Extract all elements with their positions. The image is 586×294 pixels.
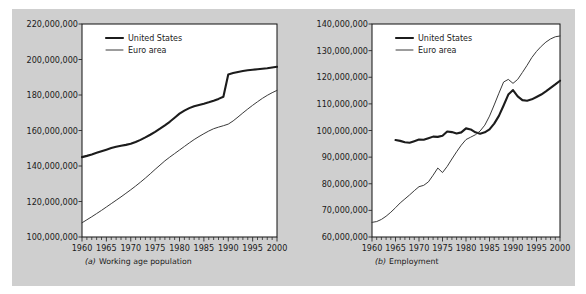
x-axis-tick-label: 1985 — [194, 243, 215, 253]
y-axis-tick-label: 100,000,000 — [317, 126, 369, 136]
plot-area-frame — [82, 24, 277, 237]
x-axis-tick-label: 2000 — [550, 243, 571, 253]
x-axis-tick-label: 1975 — [432, 243, 453, 253]
x-axis-tick-label: 2000 — [267, 243, 288, 253]
y-axis-tick-label: 70,000,000 — [322, 205, 368, 215]
y-axis-tick-label: 120,000,000 — [27, 197, 79, 207]
x-axis-tick-label: 1960 — [72, 243, 93, 253]
y-axis-tick-label: 80,000,000 — [322, 179, 368, 189]
dual-line-chart: 100,000,000120,000,000140,000,000160,000… — [0, 0, 586, 294]
y-axis-tick-label: 140,000,000 — [27, 161, 79, 171]
panel-caption: (a)Working age population — [85, 257, 192, 266]
panel-caption-marker: (b) — [375, 257, 386, 266]
x-axis-tick-label: 1980 — [456, 243, 477, 253]
x-axis-tick-label: 1980 — [169, 243, 190, 253]
y-axis-tick-label: 60,000,000 — [322, 232, 368, 242]
chart-panel-employment: 60,000,00070,000,00080,000,00090,000,000… — [317, 19, 571, 266]
panel-caption-text: Working age population — [99, 257, 192, 266]
x-axis-tick-label: 1965 — [385, 243, 406, 253]
legend-label-united-states: United States — [418, 34, 472, 43]
x-axis-tick-label: 1990 — [218, 243, 239, 253]
y-axis-tick-label: 140,000,000 — [317, 19, 369, 29]
x-axis-tick-label: 1995 — [526, 243, 547, 253]
x-axis-tick-label: 1990 — [503, 243, 524, 253]
legend-label-euro-area: Euro area — [418, 46, 457, 55]
panel-caption-text: Employment — [389, 257, 438, 266]
y-axis-tick-label: 130,000,000 — [317, 46, 369, 56]
x-axis-tick-label: 1965 — [96, 243, 117, 253]
x-axis-tick-label: 1960 — [362, 243, 383, 253]
chart-panel-working-age-population: 100,000,000120,000,000140,000,000160,000… — [27, 19, 288, 266]
y-axis-tick-label: 200,000,000 — [27, 55, 79, 65]
x-axis-tick-label: 1970 — [120, 243, 141, 253]
x-axis-tick-label: 1985 — [479, 243, 500, 253]
y-axis-tick-label: 120,000,000 — [317, 72, 369, 82]
plot-area-frame — [372, 24, 560, 237]
y-axis-tick-label: 220,000,000 — [27, 19, 79, 29]
x-axis-tick-label: 1975 — [145, 243, 166, 253]
x-axis-tick-label: 1970 — [409, 243, 430, 253]
y-axis-tick-label: 160,000,000 — [27, 126, 79, 136]
legend-label-euro-area: Euro area — [128, 46, 167, 55]
panel-caption: (b)Employment — [375, 257, 438, 266]
y-axis-tick-label: 100,000,000 — [27, 232, 79, 242]
x-axis-tick-label: 1995 — [242, 243, 263, 253]
figure-container: 100,000,000120,000,000140,000,000160,000… — [0, 0, 586, 294]
y-axis-tick-label: 110,000,000 — [317, 99, 369, 109]
y-axis-tick-label: 90,000,000 — [322, 152, 368, 162]
legend-label-united-states: United States — [128, 34, 182, 43]
y-axis-tick-label: 180,000,000 — [27, 90, 79, 100]
panel-caption-marker: (a) — [85, 257, 96, 266]
